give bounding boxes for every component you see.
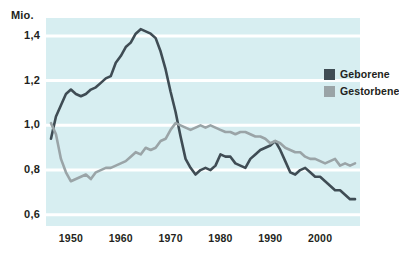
y-tick-label: 0,6 <box>6 208 40 220</box>
x-tick-label: 2000 <box>308 232 332 244</box>
y-tick-label: 1,2 <box>6 74 40 86</box>
legend: Geborene Gestorbene <box>324 67 399 98</box>
legend-swatch-geborene <box>324 69 335 80</box>
legend-swatch-gestorbene <box>324 86 335 97</box>
x-tick-label: 1980 <box>208 232 232 244</box>
x-tick-label: 1990 <box>258 232 282 244</box>
series-lines <box>51 29 355 199</box>
legend-item-geborene: Geborene <box>324 67 399 81</box>
plot-area: Geborene Gestorbene <box>46 18 360 226</box>
x-tick-label: 1960 <box>109 232 133 244</box>
x-axis-tick-labels: 195019601970198019902000 <box>0 232 384 252</box>
y-axis-tick-labels: 0,60,81,01,21,4 <box>0 0 40 263</box>
x-tick-label: 1950 <box>59 232 83 244</box>
y-tick-label: 0,8 <box>6 163 40 175</box>
x-tick-label: 1970 <box>159 232 183 244</box>
y-tick-label: 1,0 <box>6 118 40 130</box>
legend-label-gestorbene: Gestorbene <box>340 85 399 97</box>
y-tick-label: 1,4 <box>6 29 40 41</box>
legend-item-gestorbene: Gestorbene <box>324 84 399 98</box>
series-line-geborene <box>51 29 355 199</box>
legend-label-geborene: Geborene <box>340 68 390 80</box>
plot-svg <box>46 18 360 226</box>
